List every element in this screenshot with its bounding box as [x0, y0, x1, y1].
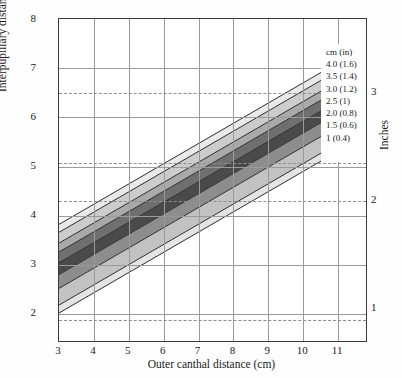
xtick-7 [199, 341, 200, 342]
x-tick-label-10: 10 [290, 345, 314, 356]
xtick-8 [233, 341, 234, 342]
secondary-y-axis-title: Inches [378, 120, 390, 150]
ytick-2 [58, 314, 59, 315]
band-2.5 [59, 74, 366, 263]
ytick-3 [58, 265, 59, 266]
y2tick-minor-2.5 [366, 147, 367, 148]
x-tick-label-11: 11 [325, 345, 349, 356]
legend-item-4.0: 4.0 (1.6) [326, 58, 367, 70]
ytick-4 [58, 216, 59, 217]
ytick-8 [58, 19, 59, 20]
gridline-y-7 [59, 68, 366, 69]
band-1.5 [59, 97, 366, 289]
y-tick-label-5: 5 [14, 160, 36, 171]
x-tick-label-3: 3 [46, 345, 70, 356]
legend-item-1.0: 1 (0.4) [326, 132, 367, 144]
y2tick-3 [366, 93, 367, 94]
ytick-minor-7.5 [58, 44, 59, 45]
y2tick-minor-1.25 [366, 282, 367, 283]
y-tick-label-7: 7 [14, 62, 36, 73]
y2-tick-label-3: 3 [371, 86, 377, 97]
ytick-6 [58, 117, 59, 118]
plot-area: cm (in) 4.0 (1.6) 3.5 (1.4) 3.0 (1.2) 2.… [58, 18, 367, 342]
legend-item-2.0: 2.0 (0.8) [326, 107, 367, 119]
ytick-minor-5.5 [58, 142, 59, 143]
band-2.0-core [59, 85, 366, 275]
ytick-minor-3.5 [58, 240, 59, 241]
ytick-5 [58, 167, 59, 168]
y2tick-minor-1.5 [366, 255, 367, 256]
ytick-minor-2.5 [58, 289, 59, 290]
y2tick-minor-2.25 [366, 174, 367, 175]
xtick-6 [164, 341, 165, 342]
gridline-y-4 [59, 216, 366, 217]
x-tick-label-9: 9 [255, 345, 279, 356]
gridline-y-6 [59, 117, 366, 118]
y2tick-minor-2.75 [366, 120, 367, 121]
x-tick-label-4: 4 [81, 345, 105, 356]
y2-tick-label-1: 1 [371, 302, 377, 313]
x-tick-label-6: 6 [151, 345, 175, 356]
legend-item-2.5: 2.5 (1) [326, 95, 367, 107]
legend: cm (in) 4.0 (1.6) 3.5 (1.4) 3.0 (1.2) 2.… [323, 46, 367, 146]
ytick-7 [58, 68, 59, 69]
chart-figure: Interpupillary distance (cm) Inches Oute… [0, 0, 402, 378]
xtick-3 [59, 341, 60, 342]
legend-item-3.5: 3.5 (1.4) [326, 70, 367, 82]
gridline-y-5 [59, 167, 366, 168]
ytick-minor-4.5 [58, 191, 59, 192]
y2-tick-label-2: 2 [371, 194, 377, 205]
xtick-5 [129, 341, 130, 342]
dashed-reference-2in [59, 163, 366, 164]
ytick-minor-6.5 [58, 93, 59, 94]
x-tick-label-5: 5 [116, 345, 140, 356]
xtick-11 [338, 341, 339, 342]
y-axis-title: Interpupillary distance (cm) [0, 0, 8, 92]
y-tick-label-6: 6 [14, 111, 36, 122]
y-tick-label-2: 2 [14, 307, 36, 318]
x-axis-title: Outer canthal distance (cm) [58, 358, 365, 370]
legend-item-3.0: 3.0 (1.2) [326, 83, 367, 95]
dashed-reference-3in [59, 93, 366, 94]
legend-title: cm (in) [326, 47, 367, 58]
x-tick-label-7: 7 [186, 345, 210, 356]
y-tick-label-3: 3 [14, 258, 36, 269]
y2tick-1 [366, 309, 367, 310]
xtick-9 [268, 341, 269, 342]
y-tick-label-4: 4 [14, 209, 36, 220]
dashed-reference-1in [59, 320, 366, 321]
legend-item-1.5: 1.5 (0.6) [326, 119, 367, 131]
y2tick-2 [366, 201, 367, 202]
gridline-y-3 [59, 265, 366, 266]
xtick-4 [94, 341, 95, 342]
y-tick-label-8: 8 [14, 13, 36, 24]
xtick-10 [303, 341, 304, 342]
dashed-reference-4cm [59, 201, 366, 202]
x-tick-label-8: 8 [220, 345, 244, 356]
gridline-y-2 [59, 314, 366, 315]
y2tick-minor-1.75 [366, 228, 367, 229]
